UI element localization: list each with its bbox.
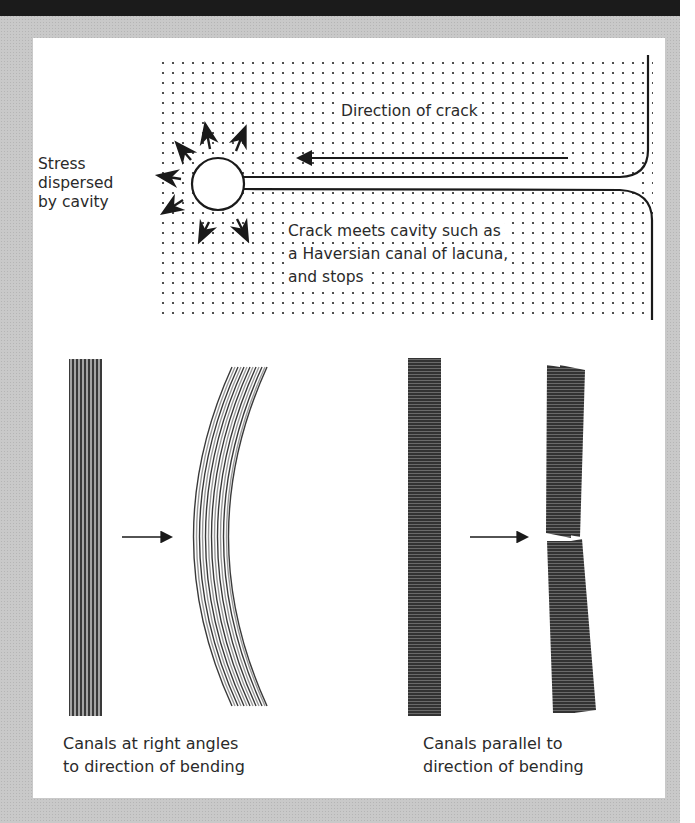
label-crack-meets-3: and stops: [285, 268, 367, 287]
cavity-circle: [192, 158, 244, 210]
label-crack-meets-1: Crack meets cavity such as: [285, 222, 504, 241]
straight-dark-bar: [408, 358, 441, 716]
right-angle-canals-diagram: [69, 359, 267, 716]
parallel-canals-diagram: [408, 358, 596, 716]
label-stress-2: dispersed: [38, 174, 113, 193]
label-stress-3: by cavity: [38, 193, 109, 212]
caption-right-angles-2: to direction of bending: [63, 757, 245, 777]
caption-right-angles-1: Canals at right angles: [63, 734, 238, 754]
caption-parallel-1: Canals parallel to: [423, 734, 562, 754]
label-stress-1: Stress: [38, 155, 86, 174]
straight-striped-bar: [69, 359, 102, 716]
caption-parallel-2: direction of bending: [423, 757, 584, 777]
curved-striped-bar: [194, 367, 268, 706]
label-direction-of-crack: Direction of crack: [337, 102, 482, 121]
diagram-canvas: [0, 0, 695, 823]
crack-diagram: [155, 55, 653, 320]
label-crack-meets-2: a Haversian canal of lacuna,: [285, 245, 511, 264]
